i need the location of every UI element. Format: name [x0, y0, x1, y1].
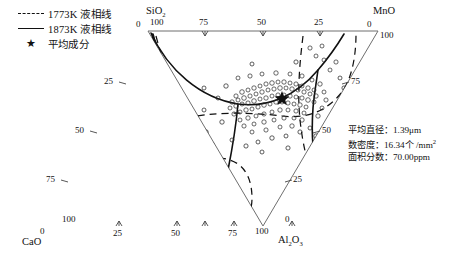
vertex-al2o3-sub2: 3 [299, 240, 302, 247]
legend-label-1773k: 1773K 液相线 [48, 6, 111, 21]
star-icon: ★ [14, 38, 48, 49]
stat-mean-diameter-label: 平均直径： [348, 125, 393, 135]
corner-value-cao-bottom: 0 [40, 226, 45, 236]
legend: 1773K 液相线 1873K 液相线 ★ 平均成分 [14, 6, 164, 51]
corner-value-cao-top: 100 [62, 214, 76, 224]
liquidus-1873k-solid [131, 33, 344, 226]
corner-value-mno-right: 100 [380, 30, 394, 40]
stat-number-density-value: 16.34 [384, 140, 405, 150]
tick-top-75: 75 [199, 17, 208, 27]
vertex-label-cao: CaO [22, 236, 41, 247]
tick-right-75: 75 [351, 76, 360, 86]
legend-item-1773k: 1773K 液相线 [14, 6, 164, 21]
legend-label-mean-composition: 平均成分 [48, 36, 89, 51]
star-glyph: ★ [26, 38, 36, 49]
corner-value-al2o3-right: 0 [285, 214, 290, 224]
vertex-mno-text: MnO [373, 5, 395, 16]
vertex-label-al2o3: Al2O3 [278, 234, 303, 247]
solid-line-icon [14, 28, 48, 29]
stat-number-density-unit-sup: 2 [433, 138, 436, 145]
corner-value-top-right: 100 [150, 17, 164, 27]
stat-area-fraction-label: 面积分数： [348, 152, 393, 162]
dashed-line-icon [14, 13, 48, 14]
stat-area-fraction-value: 70.00 [393, 152, 414, 162]
legend-item-mean-composition: ★ 平均成分 [14, 36, 164, 51]
inclusion-scatter-points [71, 44, 346, 187]
ternary-diagram-figure: 1773K 液相线 1873K 液相线 ★ 平均成分 SiO2 MnO CaO … [0, 0, 454, 261]
tick-top-25: 25 [314, 17, 323, 27]
liquidus-1773k-dashed [118, 34, 356, 226]
edge-ticks [61, 82, 349, 182]
vertex-sio2-text: SiO [146, 5, 162, 16]
stat-number-density-unit: 个 /mm [405, 140, 433, 150]
vertex-cao-text: CaO [22, 236, 41, 247]
vertex-al2o3-text: Al [278, 234, 289, 245]
corner-value-top-left: 0 [136, 19, 141, 29]
tick-right-50: 50 [322, 125, 331, 135]
stat-mean-diameter-unit: μm [409, 125, 421, 135]
statistics-info-box: 平均直径：1.39μm 数密度：16.34个 /mm2 面积分数：70.00pp… [348, 124, 452, 164]
legend-label-1873k: 1873K 液相线 [48, 21, 111, 36]
legend-item-1873k: 1873K 液相线 [14, 21, 164, 36]
tick-left-25: 25 [104, 76, 113, 86]
stat-mean-diameter: 平均直径：1.39μm [348, 124, 452, 136]
stat-area-fraction-unit: ppm [414, 152, 430, 162]
tick-bottom-75: 75 [228, 228, 237, 238]
corner-value-al2o3-left: 100 [255, 226, 269, 236]
tick-left-75: 75 [46, 174, 55, 184]
vertex-label-mno: MnO [373, 5, 395, 16]
corner-value-mno-left: 0 [367, 19, 372, 29]
tick-bottom-50: 50 [171, 228, 180, 238]
triangle-outline [148, 31, 378, 226]
tick-right-25: 25 [293, 174, 302, 184]
tick-left-50: 50 [75, 125, 84, 135]
stat-number-density-label: 数密度： [348, 140, 384, 150]
stat-mean-diameter-value: 1.39 [393, 125, 409, 135]
stat-number-density: 数密度：16.34个 /mm2 [348, 136, 452, 151]
tick-top-50: 50 [257, 17, 266, 27]
stat-area-fraction: 面积分数：70.00ppm [348, 151, 452, 163]
tick-bottom-25: 25 [113, 228, 122, 238]
